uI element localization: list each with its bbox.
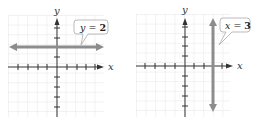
callout-eq: =: [230, 20, 244, 31]
y-axis-label: y: [181, 4, 188, 15]
svg-text:y = 2: y = 2: [79, 22, 106, 33]
graph-x-equals-3: x y x = 3: [136, 4, 251, 117]
figure-canvas: x y y = 2: [0, 0, 262, 127]
x-axis-label: x: [237, 60, 243, 71]
graph-y-equals-2: x y y = 2: [8, 5, 114, 117]
svg-text:x = 3: x = 3: [225, 20, 251, 31]
x-axis-label: x: [108, 61, 114, 72]
callout-rhs: 3: [244, 20, 251, 31]
callout-eq: =: [85, 22, 99, 33]
callout-rhs: 2: [99, 22, 106, 33]
y-axis-label: y: [53, 5, 60, 16]
